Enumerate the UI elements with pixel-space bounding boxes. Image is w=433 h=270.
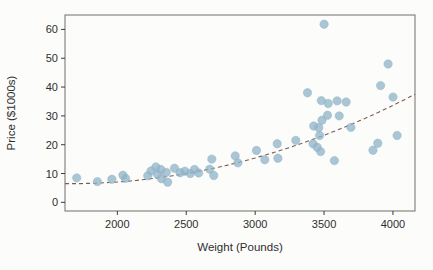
data-points <box>73 20 402 186</box>
data-point <box>121 174 129 182</box>
y-tick-label: 10 <box>46 168 58 180</box>
y-axis-label: Price ($1000s) <box>5 75 17 150</box>
data-point <box>303 89 311 97</box>
y-tick-label: 20 <box>46 139 58 151</box>
data-point <box>316 147 324 155</box>
data-point <box>252 146 260 154</box>
x-axis-ticks: 20002500300035004000 <box>105 211 405 230</box>
data-point <box>210 171 218 179</box>
data-point <box>273 140 281 148</box>
data-point <box>330 156 338 164</box>
data-point <box>93 177 101 185</box>
x-tick-label: 2000 <box>105 218 129 230</box>
y-axis-ticks: 0102030405060 <box>46 23 65 208</box>
scatter-chart: 20002500300035004000 0102030405060 Weigh… <box>0 0 433 270</box>
x-tick-label: 3500 <box>312 218 336 230</box>
data-point <box>324 99 332 107</box>
y-tick-label: 50 <box>46 52 58 64</box>
data-point <box>73 174 81 182</box>
data-point <box>274 154 282 162</box>
data-point <box>384 60 392 68</box>
data-point <box>164 178 172 186</box>
data-point <box>234 159 242 167</box>
data-point <box>292 136 300 144</box>
data-point <box>335 112 343 120</box>
data-point <box>374 139 382 147</box>
x-tick-label: 2500 <box>174 218 198 230</box>
data-point <box>389 93 397 101</box>
y-tick-label: 40 <box>46 81 58 93</box>
y-tick-label: 30 <box>46 110 58 122</box>
data-point <box>323 111 331 119</box>
x-axis-label: Weight (Pounds) <box>197 241 283 253</box>
data-point <box>376 81 384 89</box>
data-point <box>333 97 341 105</box>
data-point <box>108 175 116 183</box>
data-point <box>393 131 401 139</box>
data-point <box>162 168 170 176</box>
x-tick-label: 3000 <box>243 218 267 230</box>
data-point <box>347 123 355 131</box>
scatter-figure: 20002500300035004000 0102030405060 Weigh… <box>0 0 433 270</box>
data-point <box>342 98 350 106</box>
x-tick-label: 4000 <box>381 218 405 230</box>
trend-line <box>65 94 415 183</box>
data-point <box>261 156 269 164</box>
data-point <box>315 131 323 139</box>
y-tick-label: 0 <box>52 196 58 208</box>
y-tick-label: 60 <box>46 23 58 35</box>
data-point <box>195 169 203 177</box>
data-point <box>320 20 328 28</box>
data-point <box>315 124 323 132</box>
data-point <box>208 155 216 163</box>
